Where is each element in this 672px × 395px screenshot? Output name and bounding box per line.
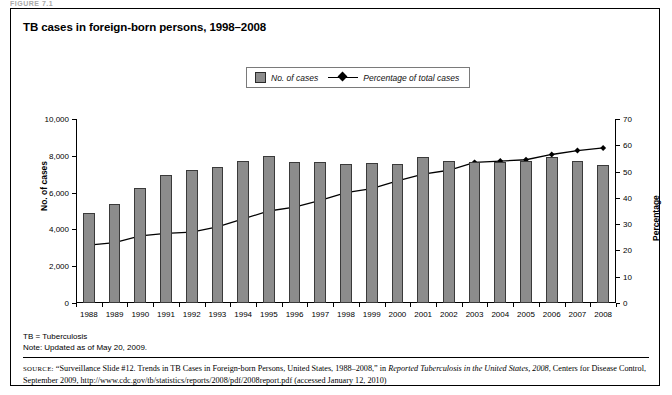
x-axis-tick-label: 1999	[363, 310, 381, 319]
legend-label-line: Percentage of total cases	[363, 73, 459, 83]
bar	[109, 204, 121, 303]
y-axis-left-tick	[72, 119, 76, 120]
x-axis-tick	[385, 303, 386, 307]
bar	[237, 161, 249, 303]
y-axis-right-tick-label: 0	[623, 299, 627, 308]
x-axis-tick-label: 2004	[491, 310, 509, 319]
x-axis-tick	[256, 303, 257, 307]
chart-legend: No. of cases Percentage of total cases	[246, 67, 470, 88]
y-axis-left-tick-label: 0	[65, 299, 69, 308]
y-axis-right-title: Percentage	[651, 195, 661, 241]
x-axis-tick-label: 1990	[131, 310, 149, 319]
x-axis-tick	[462, 303, 463, 307]
x-axis-tick-label: 2008	[594, 310, 612, 319]
source-citation: SOURCE: “Surveillance Slide #12. Trends …	[23, 363, 647, 387]
bar	[417, 157, 429, 303]
bar	[83, 213, 95, 303]
x-axis-tick	[616, 303, 617, 307]
line-marker-diamond	[574, 148, 580, 154]
x-axis-tick	[565, 303, 566, 307]
x-axis-tick-label: 2002	[440, 310, 458, 319]
x-axis-tick-label: 1996	[286, 310, 304, 319]
bar	[160, 175, 172, 303]
x-axis-tick	[436, 303, 437, 307]
legend-line-icon	[328, 77, 358, 79]
x-axis-tick	[590, 303, 591, 307]
x-axis-tick-label: 1989	[106, 310, 124, 319]
x-axis-tick-label: 1998	[337, 310, 355, 319]
x-axis-tick-label: 1988	[80, 310, 98, 319]
figure-label: FIGURE 7.1	[10, 0, 53, 7]
x-axis-tick-label: 1997	[311, 310, 329, 319]
y-axis-right-tick-label: 60	[623, 141, 632, 150]
y-axis-right-tick-label: 50	[623, 167, 632, 176]
x-axis-tick	[513, 303, 514, 307]
figure-frame: TB cases in foreign-born persons, 1998–2…	[10, 8, 660, 386]
y-axis-right-tick	[616, 277, 620, 278]
y-axis-left-tick-label: 8,000	[49, 151, 69, 160]
y-axis-right-tick-label: 70	[623, 115, 632, 124]
legend-diamond-icon	[338, 72, 348, 82]
x-axis-tick	[76, 303, 77, 307]
plot-area: 02,0004,0006,0008,00010,0000102030405060…	[76, 119, 616, 303]
bar	[263, 156, 275, 303]
x-axis-tick	[230, 303, 231, 307]
legend-item-bars: No. of cases	[255, 72, 318, 83]
line-marker-diamond	[600, 145, 606, 151]
x-axis-tick	[179, 303, 180, 307]
x-axis-tick-label: 2005	[517, 310, 535, 319]
y-axis-right-tick	[616, 145, 620, 146]
bar	[134, 188, 146, 303]
x-axis-tick-label: 2003	[466, 310, 484, 319]
x-axis-tick	[153, 303, 154, 307]
y-axis-right-tick-label: 10	[623, 272, 632, 281]
y-axis-left-tick	[72, 193, 76, 194]
source-label: SOURCE:	[23, 365, 54, 372]
bar	[186, 170, 198, 303]
bar	[366, 163, 378, 303]
x-axis-tick	[102, 303, 103, 307]
x-axis-tick	[410, 303, 411, 307]
x-axis-tick-label: 1993	[209, 310, 227, 319]
bar	[597, 165, 609, 303]
x-axis-tick-label: 2001	[414, 310, 432, 319]
bar	[494, 162, 506, 303]
y-axis-right-tick-label: 40	[623, 193, 632, 202]
y-axis-left-tick-label: 6,000	[49, 188, 69, 197]
y-axis-right-tick	[616, 172, 620, 173]
x-axis-tick	[539, 303, 540, 307]
x-axis-tick	[307, 303, 308, 307]
chart-plot: 02,0004,0006,0008,00010,0000102030405060…	[76, 119, 616, 303]
y-axis-left-title: No. of cases	[39, 161, 49, 211]
x-axis-tick-label: 2000	[389, 310, 407, 319]
x-axis-tick	[127, 303, 128, 307]
x-axis-tick	[205, 303, 206, 307]
y-axis-left-tick-label: 10,000	[45, 115, 69, 124]
x-axis-tick	[333, 303, 334, 307]
divider	[23, 357, 649, 358]
x-axis-tick-label: 2006	[543, 310, 561, 319]
chart-notes: TB = Tuberculosis Note: Updated as of Ma…	[23, 331, 147, 353]
x-axis-tick	[282, 303, 283, 307]
source-italic-title: Reported Tuberculosis in the United Stat…	[388, 364, 548, 373]
note-updated: Note: Updated as of May 20, 2009.	[23, 342, 147, 353]
legend-label-bars: No. of cases	[271, 73, 318, 83]
y-axis-left-tick	[72, 229, 76, 230]
y-axis-right-tick	[616, 119, 620, 120]
bar	[572, 161, 584, 303]
legend-item-line: Percentage of total cases	[328, 73, 459, 83]
bar	[546, 157, 558, 303]
bar	[520, 161, 532, 303]
y-axis-left-tick-label: 2,000	[49, 262, 69, 271]
x-axis-tick-label: 1995	[260, 310, 278, 319]
bar	[314, 162, 326, 303]
bar	[392, 164, 404, 303]
y-axis-right-tick	[616, 224, 620, 225]
bar	[289, 162, 301, 303]
x-axis-tick	[487, 303, 488, 307]
page-title: TB cases in foreign-born persons, 1998–2…	[23, 21, 266, 33]
x-axis-tick	[359, 303, 360, 307]
x-axis-tick-label: 2007	[569, 310, 587, 319]
y-axis-left-tick	[72, 156, 76, 157]
y-axis-right-tick-label: 20	[623, 246, 632, 255]
